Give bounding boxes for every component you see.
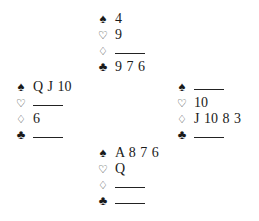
east-hearts-row: ♡ 10 [175, 95, 259, 111]
south-clubs-row: ♣ [96, 193, 186, 209]
club-icon: ♣ [14, 127, 28, 143]
east-spades-void [194, 89, 224, 90]
heart-icon: ♡ [96, 27, 110, 43]
south-spades-cards: A 8 7 6 [115, 145, 159, 161]
heart-icon: ♡ [96, 161, 110, 177]
east-clubs-row: ♣ [175, 127, 259, 143]
east-diamonds-row: ♢ J 10 8 3 [175, 111, 259, 127]
north-diamonds-row: ♢ [96, 43, 186, 59]
diamond-icon: ♢ [96, 177, 110, 193]
heart-icon: ♡ [14, 95, 28, 111]
club-icon: ♣ [175, 127, 189, 143]
spade-icon: ♠ [14, 79, 28, 95]
spade-icon: ♠ [96, 11, 110, 27]
west-hearts-row: ♡ [14, 95, 104, 111]
south-hearts-cards: Q [115, 161, 125, 177]
south-diamonds-void [115, 187, 145, 188]
west-spades-row: ♠ Q J 10 [14, 79, 104, 95]
spade-icon: ♠ [96, 145, 110, 161]
north-hearts-row: ♡ 9 [96, 27, 186, 43]
east-hearts-cards: 10 [194, 95, 208, 111]
spade-icon: ♠ [175, 79, 189, 95]
east-diamonds-cards: J 10 8 3 [194, 111, 241, 127]
south-hearts-row: ♡ Q [96, 161, 186, 177]
west-spades-cards: Q J 10 [33, 79, 72, 95]
north-diamonds-void [115, 53, 145, 54]
west-diamonds-row: ♢ 6 [14, 111, 104, 127]
north-spades-row: ♠ 4 [96, 11, 186, 27]
north-hearts-cards: 9 [115, 27, 122, 43]
north-clubs-cards: 9 7 6 [115, 59, 145, 75]
club-icon: ♣ [96, 193, 110, 209]
east-clubs-void [194, 137, 224, 138]
west-hearts-void [33, 105, 63, 106]
north-spades-cards: 4 [115, 11, 122, 27]
diamond-icon: ♢ [14, 111, 28, 127]
east-spades-row: ♠ [175, 79, 259, 95]
heart-icon: ♡ [175, 95, 189, 111]
club-icon: ♣ [96, 59, 110, 75]
west-clubs-row: ♣ [14, 127, 104, 143]
west-diamonds-cards: 6 [33, 111, 40, 127]
south-clubs-void [115, 203, 145, 204]
south-spades-row: ♠ A 8 7 6 [96, 145, 186, 161]
west-clubs-void [33, 137, 63, 138]
diamond-icon: ♢ [175, 111, 189, 127]
north-clubs-row: ♣ 9 7 6 [96, 59, 186, 75]
south-diamonds-row: ♢ [96, 177, 186, 193]
diamond-icon: ♢ [96, 43, 110, 59]
